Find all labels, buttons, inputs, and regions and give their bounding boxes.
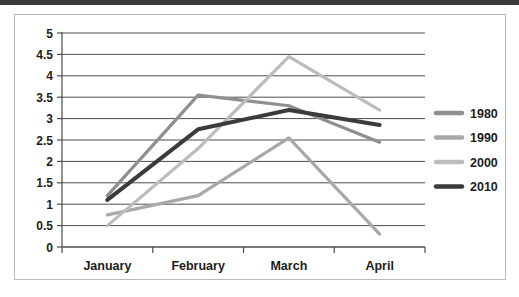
x-axis: [62, 247, 425, 253]
legend-label-1980: 1980: [470, 107, 498, 121]
line-chart: 54.543.532.521.510.50 JanuaryFebruaryMar…: [15, 15, 507, 281]
y-tick-label: 3: [46, 112, 53, 126]
chart-legend: 1980199020002010: [436, 107, 498, 195]
x-axis-category-labels: JanuaryFebruaryMarchApril: [83, 259, 393, 273]
y-axis-tick-labels: 54.543.532.521.510.50: [36, 27, 53, 255]
series-line-2000: [107, 57, 379, 226]
y-tick-label: 1.5: [36, 176, 53, 190]
legend-label-1990: 1990: [470, 131, 498, 145]
series-lines: [107, 57, 379, 235]
series-line-1980: [107, 95, 379, 196]
x-category-label-february: February: [171, 259, 225, 273]
y-tick-label: 5: [46, 27, 53, 41]
scan-edge-gap: [0, 5, 519, 9]
y-tick-label: 2.5: [36, 134, 53, 148]
x-category-label-april: April: [365, 259, 393, 273]
x-category-label-january: January: [83, 259, 131, 273]
plot-area-wrapper: 54.543.532.521.510.50 JanuaryFebruaryMar…: [15, 15, 507, 281]
y-tick-label: 0.5: [36, 219, 53, 233]
y-tick-label: 0: [46, 241, 53, 255]
y-tick-label: 4.5: [36, 48, 53, 62]
series-line-2010: [107, 110, 379, 200]
legend-label-2010: 2010: [470, 180, 498, 194]
y-axis: [57, 32, 62, 247]
y-tick-label: 4: [46, 69, 53, 83]
y-tick-label: 1: [46, 198, 53, 212]
y-tick-label: 2: [46, 155, 53, 169]
chart-page: 54.543.532.521.510.50 JanuaryFebruaryMar…: [0, 0, 519, 297]
y-tick-label: 3.5: [36, 91, 53, 105]
figure-border: 54.543.532.521.510.50 JanuaryFebruaryMar…: [14, 14, 506, 280]
x-category-label-march: March: [270, 259, 307, 273]
legend-label-2000: 2000: [470, 156, 498, 170]
